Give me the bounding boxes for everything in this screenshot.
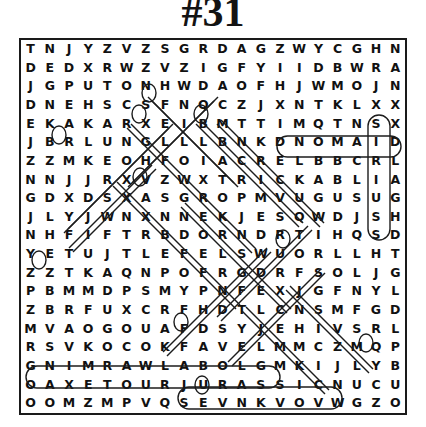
grid-cell[interactable]: H [270,77,289,96]
grid-cell[interactable]: O [117,320,136,339]
grid-cell[interactable]: E [232,338,251,357]
grid-cell[interactable]: F [59,226,78,245]
grid-cell[interactable]: O [117,77,136,96]
grid-cell[interactable]: O [117,376,136,395]
grid-cell[interactable]: Q [309,115,328,134]
grid-cell[interactable]: U [136,320,155,339]
grid-cell[interactable]: U [328,189,347,208]
grid-cell[interactable]: Z [21,301,40,320]
grid-cell[interactable]: Z [21,264,40,283]
grid-cell[interactable]: U [347,376,366,395]
grid-cell[interactable]: W [309,77,328,96]
grid-cell[interactable]: X [194,170,213,189]
grid-cell[interactable]: E [194,245,213,264]
grid-cell[interactable]: V [155,59,174,78]
grid-cell[interactable]: K [328,96,347,115]
grid-cell[interactable]: J [366,77,385,96]
grid-cell[interactable]: P [59,77,78,96]
grid-cell[interactable]: D [386,301,405,320]
grid-cell[interactable]: D [175,226,194,245]
grid-cell[interactable]: F [175,245,194,264]
grid-cell[interactable]: P [155,264,174,283]
grid-cell[interactable]: R [213,226,232,245]
grid-cell[interactable]: J [347,208,366,227]
grid-cell[interactable]: J [290,77,309,96]
grid-cell[interactable]: C [117,338,136,357]
grid-cell[interactable]: V [136,170,155,189]
grid-cell[interactable]: C [328,40,347,59]
grid-cell[interactable]: D [194,77,213,96]
grid-cell[interactable]: M [290,115,309,134]
grid-cell[interactable]: D [59,59,78,78]
grid-cell[interactable]: L [175,133,194,152]
grid-cell[interactable]: T [386,245,405,264]
grid-cell[interactable]: T [59,245,78,264]
grid-cell[interactable]: D [21,96,40,115]
grid-cell[interactable]: I [270,59,289,78]
grid-cell[interactable]: Z [175,59,194,78]
grid-cell[interactable]: N [347,282,366,301]
grid-cell[interactable]: A [309,170,328,189]
grid-cell[interactable]: B [155,226,174,245]
grid-cell[interactable]: T [251,115,270,134]
grid-cell[interactable]: A [59,115,78,134]
grid-cell[interactable]: C [347,152,366,171]
grid-cell[interactable]: F [79,301,98,320]
grid-cell[interactable]: R [251,152,270,171]
grid-cell[interactable]: S [98,96,117,115]
grid-cell[interactable]: C [309,376,328,395]
grid-cell[interactable]: X [59,376,78,395]
grid-cell[interactable]: S [136,96,155,115]
grid-cell[interactable]: L [136,245,155,264]
grid-cell[interactable]: T [328,115,347,134]
grid-cell[interactable]: G [386,189,405,208]
grid-cell[interactable]: G [251,357,270,376]
grid-cell[interactable]: J [21,133,40,152]
grid-cell[interactable]: G [251,40,270,59]
grid-cell[interactable]: M [347,338,366,357]
grid-cell[interactable]: R [98,357,117,376]
grid-cell[interactable]: Z [136,59,155,78]
grid-cell[interactable]: W [175,170,194,189]
grid-cell[interactable]: G [309,189,328,208]
grid-cell[interactable]: M [328,133,347,152]
grid-cell[interactable]: M [251,189,270,208]
grid-cell[interactable]: E [251,282,270,301]
grid-cell[interactable]: A [98,264,117,283]
grid-cell[interactable]: Z [79,394,98,413]
grid-cell[interactable]: H [155,77,174,96]
grid-cell[interactable]: O [136,338,155,357]
grid-cell[interactable]: Z [366,394,385,413]
grid-cell[interactable]: E [270,320,289,339]
grid-cell[interactable]: A [386,170,405,189]
grid-cell[interactable]: D [213,40,232,59]
grid-cell[interactable]: E [79,376,98,395]
grid-cell[interactable]: E [40,245,59,264]
grid-cell[interactable]: D [79,189,98,208]
grid-cell[interactable]: D [40,189,59,208]
grid-cell[interactable]: W [251,245,270,264]
grid-cell[interactable]: K [290,357,309,376]
grid-cell[interactable]: U [270,245,289,264]
grid-cell[interactable]: A [213,77,232,96]
grid-cell[interactable]: F [347,301,366,320]
grid-cell[interactable]: B [194,357,213,376]
grid-cell[interactable]: J [175,376,194,395]
grid-cell[interactable]: I [270,115,289,134]
grid-cell[interactable]: I [366,133,385,152]
grid-cell[interactable]: U [194,376,213,395]
grid-cell[interactable]: M [98,394,117,413]
grid-cell[interactable]: B [309,152,328,171]
grid-cell[interactable]: P [117,282,136,301]
grid-cell[interactable]: O [290,394,309,413]
grid-cell[interactable]: M [270,357,289,376]
grid-cell[interactable]: G [21,357,40,376]
grid-cell[interactable]: W [309,208,328,227]
grid-cell[interactable]: T [290,226,309,245]
grid-cell[interactable]: G [347,394,366,413]
grid-cell[interactable]: L [251,301,270,320]
grid-cell[interactable]: N [155,208,174,227]
grid-cell[interactable]: N [136,77,155,96]
grid-cell[interactable]: Y [232,320,251,339]
grid-cell[interactable]: L [290,152,309,171]
